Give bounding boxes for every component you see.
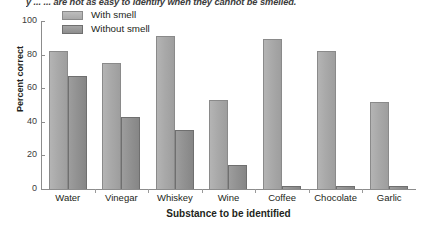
bar-with-smell-vinegar	[102, 63, 121, 189]
y-tick-label-0: 0	[32, 184, 37, 193]
x-category-label-coffee: Coffee	[255, 192, 309, 203]
bar-without-smell-coffee	[282, 186, 301, 189]
dark-gray-bar-swatch	[62, 25, 83, 34]
bar-with-smell-garlic	[370, 102, 389, 189]
bar-group	[41, 21, 95, 189]
x-category-label-chocolate: Chocolate	[309, 192, 363, 203]
y-axis-title: Percent correct	[15, 14, 25, 144]
bar-group	[95, 21, 149, 189]
x-axis-title: Substance to be identified	[41, 208, 416, 219]
plot-area	[41, 21, 416, 189]
bar-with-smell-wine	[209, 100, 228, 189]
x-axis-line	[41, 189, 416, 190]
y-tick-label-40: 40	[27, 117, 37, 126]
bar-with-smell-water	[49, 51, 68, 189]
figure-caption: y ... ... are not as easy to identify wh…	[26, 0, 426, 9]
bar-without-smell-vinegar	[121, 117, 140, 189]
x-category-label-vinegar: Vinegar	[95, 192, 149, 203]
light-gray-bar-swatch	[62, 11, 83, 20]
bar-group	[202, 21, 256, 189]
bar-without-smell-chocolate	[336, 186, 355, 189]
legend-label: With smell	[91, 9, 136, 20]
bar-with-smell-chocolate	[317, 51, 336, 189]
bar-without-smell-wine	[228, 165, 247, 189]
bar-group	[255, 21, 309, 189]
bar-without-smell-water	[68, 76, 87, 189]
legend-label: Without smell	[91, 23, 150, 34]
y-tick-0	[41, 189, 45, 190]
x-category-label-water: Water	[41, 192, 95, 203]
x-category-label-wine: Wine	[202, 192, 256, 203]
bar-group	[309, 21, 363, 189]
x-category-label-garlic: Garlic	[362, 192, 416, 203]
bar-without-smell-garlic	[389, 186, 408, 189]
y-tick-label-60: 60	[27, 83, 37, 92]
bar-group	[362, 21, 416, 189]
bar-group	[148, 21, 202, 189]
y-tick-label-80: 80	[27, 50, 37, 59]
bar-without-smell-whiskey	[175, 130, 194, 189]
y-tick-label-20: 20	[27, 150, 37, 159]
x-category-label-whiskey: Whiskey	[148, 192, 202, 203]
bar-with-smell-whiskey	[156, 36, 175, 189]
bar-with-smell-coffee	[263, 39, 282, 189]
